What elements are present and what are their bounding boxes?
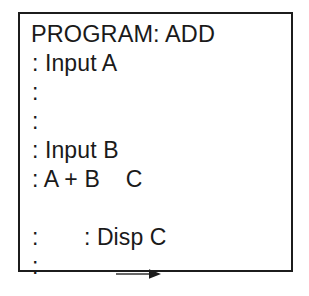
program-title: PROGRAM: ADD [31, 20, 287, 49]
code-line-input-b: : Input B [32, 136, 287, 165]
program-frame: PROGRAM: ADD : Input A : : : Input B : A… [18, 12, 293, 272]
code-line-input-a: : Input A [32, 49, 287, 78]
code-line-sum-store: : A + B C [32, 165, 287, 194]
code-line-blank-1: : [32, 78, 287, 107]
code-line-blank-4: : [32, 252, 287, 281]
right-arrow-icon [116, 208, 162, 222]
screenshot-root: PROGRAM: ADD : Input A : : : Input B : A… [0, 0, 309, 296]
code-line-disp-c-row: : Disp C [32, 194, 287, 223]
code-line-blank-2: : [32, 107, 287, 136]
program-listing: PROGRAM: ADD : Input A : : : Input B : A… [32, 20, 287, 281]
code-line-blank-3: : [32, 223, 287, 252]
